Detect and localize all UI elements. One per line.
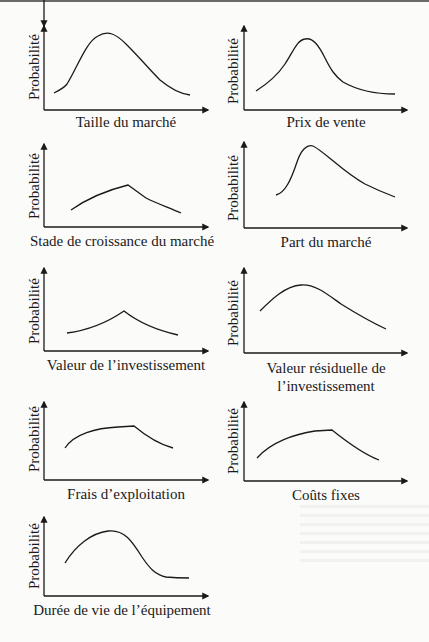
y-axis-label: Probabilité (26, 523, 43, 589)
y-axis-label: Probabilité (225, 155, 242, 221)
x-axis-label: Stade de croissance du marché (28, 232, 216, 250)
x-axis-label-line2: l’investissement (244, 377, 408, 395)
y-axis-label: Probabilité (225, 408, 242, 474)
distribution-curve (65, 426, 173, 448)
chart-duree-de-vie: Probabilité Durée de vie de l’équipement (0, 515, 200, 642)
x-axis-label: Coûts fixes (244, 486, 408, 504)
chart-couts-fixes: Probabilité Coûts fixes (215, 400, 415, 515)
distribution-curve (256, 39, 395, 94)
chart-valeur-residuelle: Probabilité Valeur résiduelle de l’inves… (215, 260, 415, 400)
y-axis-label: Probabilité (26, 406, 43, 472)
x-axis-label: Taille du marché (44, 113, 208, 131)
x-axis-label: Prix de vente (244, 113, 408, 131)
x-axis-label: Valeur résiduelle de (244, 359, 408, 377)
distribution-curve (65, 531, 189, 578)
distribution-curve (276, 146, 395, 197)
x-axis-label: Frais d’exploitation (44, 485, 208, 503)
x-axis-label: Durée de vie de l’équipement (28, 601, 216, 619)
x-axis-label: Valeur de l’investissement (40, 356, 212, 374)
chart-stade-de-croissance: Probabilité Stade de croissance du march… (0, 130, 200, 260)
chart-prix-de-vente: Probabilité Prix de vente (215, 0, 415, 130)
y-axis-label: Probabilité (26, 278, 43, 344)
distribution-curve (260, 285, 386, 329)
chart-valeur-investissement: Probabilité Valeur de l’investissement (0, 260, 200, 400)
chart-frais-exploitation: Probabilité Frais d’exploitation (0, 400, 200, 515)
x-axis-label: Part du marché (244, 233, 408, 251)
y-axis-label: Probabilité (225, 280, 242, 346)
distribution-curve (67, 311, 178, 335)
y-axis-label: Probabilité (26, 34, 43, 100)
y-axis-label: Probabilité (26, 153, 43, 219)
distribution-curve (257, 430, 379, 460)
chart-taille-du-marche: Probabilité Taille du marché (0, 0, 200, 130)
chart-plot (215, 0, 429, 130)
distribution-curve (54, 33, 190, 95)
y-axis-label: Probabilité (225, 38, 242, 104)
distribution-curve (71, 185, 181, 213)
chart-part-du-marche: Probabilité Part du marché (215, 130, 415, 260)
